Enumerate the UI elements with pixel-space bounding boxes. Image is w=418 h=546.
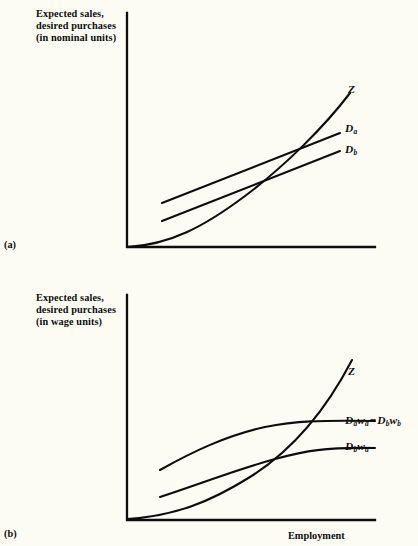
panel-b-label-z: Z [348, 365, 355, 377]
panel-b-label-dbwa-w: w [357, 440, 365, 452]
panel-b-label-dawa-s1: a [353, 419, 357, 428]
panel-a-label-db: Db [345, 143, 357, 155]
panel-a-tag: (a) [4, 239, 16, 250]
panel-a-y-axis-caption: Expected sales, desired purchases (in no… [36, 8, 116, 45]
panel-b-label-dbwa: Dbwa [345, 440, 369, 452]
panel-a-label-da: Da [345, 122, 357, 134]
panel-b-label-dawa-ws1: a [365, 419, 369, 428]
panel-b-caption-line-1: Expected sales, [36, 292, 116, 304]
panel-b-axes [127, 295, 375, 520]
panel-b-label-dbwa-ws: a [365, 445, 369, 454]
panel-b-label-dawa: Dawa=Dbwb [345, 414, 401, 426]
panel-b-label-dawa-w1: w [357, 414, 365, 426]
panel-b: Expected sales, desired purchases (in wa… [0, 273, 418, 546]
panel-b-label-dawa-s2: b [386, 419, 390, 428]
panel-a-caption-line-2: desired purchases [36, 20, 116, 32]
panel-a-label-z: Z [348, 83, 355, 95]
figure-root: Expected sales, desired purchases (in no… [0, 0, 418, 546]
panel-b-curve-dawa [160, 421, 375, 470]
panel-a-caption-line-3: (in nominal units) [36, 32, 116, 44]
panel-b-label-dawa-d2: D [377, 414, 385, 426]
panel-a-label-db-sub: b [353, 148, 357, 157]
panel-a-axes [127, 13, 375, 247]
panel-a: Expected sales, desired purchases (in no… [0, 0, 418, 273]
panel-b-caption-line-3: (in wage units) [36, 316, 116, 328]
panel-a-curve-db [162, 151, 340, 221]
panel-b-curve-dbwa [160, 448, 375, 497]
panel-a-caption-line-1: Expected sales, [36, 8, 116, 20]
panel-b-y-axis-caption: Expected sales, desired purchases (in wa… [36, 292, 116, 329]
panel-a-curve-z [127, 93, 350, 247]
panel-b-label-dbwa-ds: b [353, 445, 357, 454]
panel-b-tag: (b) [4, 528, 17, 539]
panel-b-caption-line-2: desired purchases [36, 304, 116, 316]
panel-a-label-da-sub: a [353, 127, 357, 136]
x-axis-title: Employment [288, 530, 345, 541]
panel-b-curve-z [127, 360, 352, 519]
panel-b-label-dawa-ws2: b [397, 419, 401, 428]
